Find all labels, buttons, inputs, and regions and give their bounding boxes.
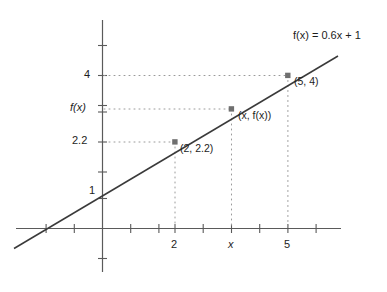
- point-x-fx: [229, 106, 234, 111]
- function-equation-label: f(x) = 0.6x + 1: [293, 30, 361, 41]
- point-label-x-fx: (x, f(x)): [238, 110, 271, 121]
- x-tick-label-5: 5: [284, 239, 290, 250]
- x-tick-label-x: x: [228, 239, 234, 250]
- y-tick-label-1: 1: [89, 185, 95, 196]
- function-line: [14, 56, 338, 249]
- point-label-2-2.2: (2, 2.2): [180, 143, 213, 154]
- equation-tail: + 1: [342, 29, 361, 41]
- y-tick-label-2.2: 2.2: [72, 135, 87, 146]
- point-2-2.2: [172, 139, 177, 144]
- y-tick-label-4: 4: [84, 69, 90, 80]
- y-tick-label-fx: f(x): [70, 102, 86, 113]
- point-5-4: [285, 73, 290, 78]
- x-tick-label-2: 2: [171, 239, 177, 250]
- point-label-5-4: (5, 4): [294, 76, 319, 87]
- equation-eq-coef: = 0.6: [309, 29, 337, 41]
- figure-container: 4 f(x) 2.2 1 2 x 5 (2, 2.2) (x, f(x)) (5…: [0, 0, 387, 292]
